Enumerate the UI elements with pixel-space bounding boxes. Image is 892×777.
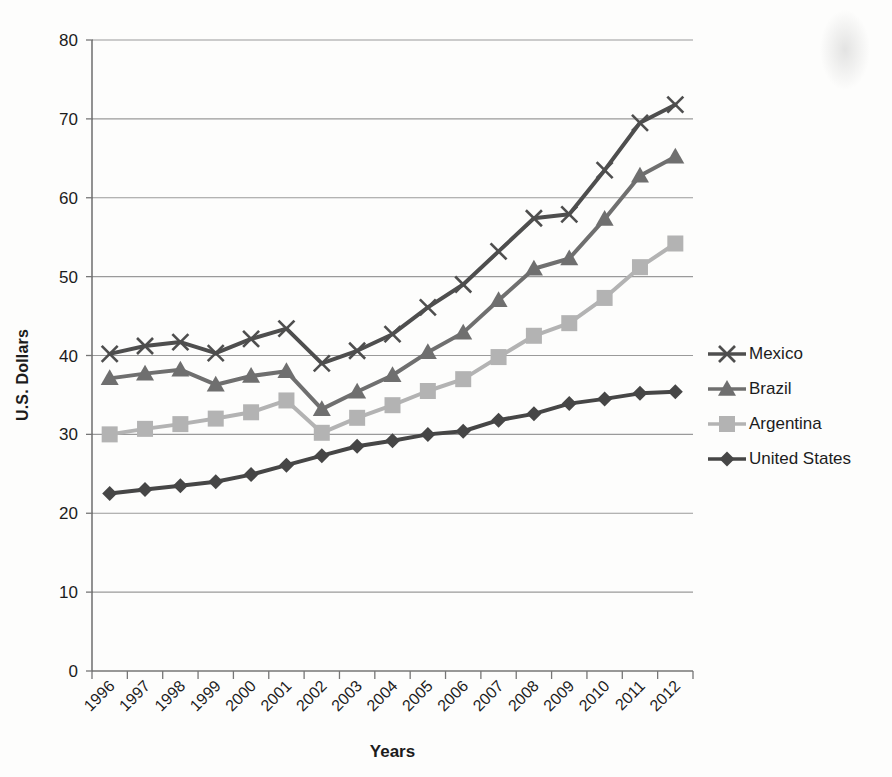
svg-text:2000: 2000 [222, 677, 259, 714]
svg-text:1998: 1998 [151, 677, 188, 714]
svg-text:2009: 2009 [540, 677, 577, 714]
svg-text:2003: 2003 [328, 677, 365, 714]
legend-item-mexico: Mexico [706, 336, 851, 371]
svg-text:1996: 1996 [81, 677, 118, 714]
svg-text:2010: 2010 [576, 677, 613, 714]
svg-text:2002: 2002 [293, 677, 330, 714]
svg-text:30: 30 [59, 425, 78, 444]
x-axis-title: Years [92, 742, 693, 762]
square-marker-icon [706, 414, 748, 434]
svg-text:2001: 2001 [257, 677, 294, 714]
svg-text:2004: 2004 [363, 677, 400, 714]
svg-text:2006: 2006 [434, 677, 471, 714]
legend-label-united-states: United States [749, 449, 851, 469]
chart-legend: Mexico Brazil Argentina United States [706, 336, 851, 476]
svg-text:1999: 1999 [187, 677, 224, 714]
diamond-marker-icon [706, 449, 748, 469]
svg-text:70: 70 [59, 110, 78, 129]
legend-item-brazil: Brazil [706, 371, 851, 406]
legend-label-brazil: Brazil [749, 379, 792, 399]
triangle-marker-icon [706, 379, 748, 399]
chart-figure: 0102030405060708019961997199819992000200… [0, 0, 892, 777]
svg-text:40: 40 [59, 347, 78, 366]
svg-text:0: 0 [69, 662, 78, 681]
x-cross-marker-icon [706, 344, 748, 364]
svg-text:2012: 2012 [646, 677, 683, 714]
svg-text:20: 20 [59, 504, 78, 523]
svg-text:2005: 2005 [399, 677, 436, 714]
legend-item-argentina: Argentina [706, 406, 851, 441]
legend-item-united-states: United States [706, 441, 851, 476]
legend-label-mexico: Mexico [749, 344, 803, 364]
legend-label-argentina: Argentina [749, 414, 822, 434]
svg-text:80: 80 [59, 31, 78, 50]
svg-text:50: 50 [59, 268, 78, 287]
svg-text:2008: 2008 [505, 677, 542, 714]
svg-text:10: 10 [59, 583, 78, 602]
svg-text:2007: 2007 [469, 677, 506, 714]
svg-text:1997: 1997 [116, 677, 153, 714]
y-axis-title: U.S. Dollars [14, 310, 32, 440]
svg-text:2011: 2011 [612, 677, 648, 713]
svg-text:60: 60 [59, 189, 78, 208]
